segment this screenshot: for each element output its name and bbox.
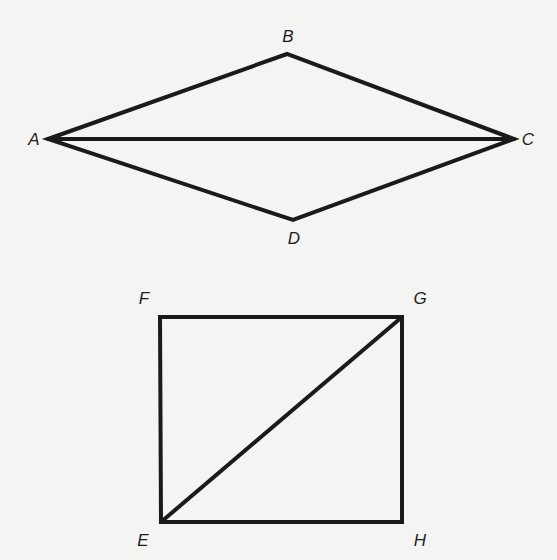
label-e: E	[137, 531, 149, 550]
label-c: C	[522, 130, 535, 149]
rectangle-efgh	[160, 317, 402, 522]
label-f: F	[139, 289, 151, 308]
label-b: B	[282, 27, 293, 46]
label-a: A	[27, 130, 39, 149]
diagram-canvas: A B C D F G E H	[0, 0, 557, 560]
diagonal-eg	[161, 317, 402, 522]
label-h: H	[414, 531, 427, 550]
label-g: G	[413, 289, 426, 308]
kite-abcd	[48, 54, 514, 220]
geometry-figure: A B C D F G E H	[0, 0, 557, 560]
label-d: D	[288, 229, 300, 248]
vertex-labels: A B C D F G E H	[27, 27, 535, 550]
